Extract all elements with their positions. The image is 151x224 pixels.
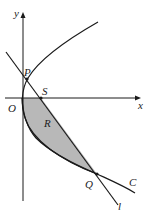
curve-c-label: C xyxy=(129,176,137,188)
origin-label: O xyxy=(8,102,16,114)
diagram: y x O P S Q C l R xyxy=(0,0,151,224)
region-r-label: R xyxy=(43,117,51,129)
point-p-label: P xyxy=(23,66,31,78)
point-q-marker xyxy=(95,172,98,175)
line-l-label: l xyxy=(118,200,121,212)
point-q-label: Q xyxy=(85,178,93,190)
point-s-label: S xyxy=(42,85,48,97)
x-axis-label: x xyxy=(137,99,143,111)
region-r xyxy=(22,98,97,174)
y-axis-label: y xyxy=(13,7,19,19)
y-axis-arrow-icon xyxy=(21,12,26,18)
